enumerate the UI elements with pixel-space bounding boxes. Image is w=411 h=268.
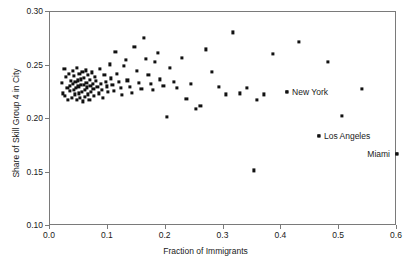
data-point <box>176 86 179 89</box>
data-point <box>151 88 154 91</box>
point-annotation-label: Los Angeles <box>324 131 370 141</box>
data-point <box>106 90 109 93</box>
data-point <box>92 94 95 97</box>
data-point <box>63 94 66 97</box>
data-point <box>255 98 258 101</box>
data-point <box>154 61 157 64</box>
data-point <box>115 72 118 75</box>
data-point <box>108 63 111 66</box>
data-point <box>180 56 183 59</box>
data-point <box>144 57 147 60</box>
data-point <box>122 64 125 67</box>
data-point <box>245 86 248 89</box>
data-point <box>126 79 129 82</box>
data-point <box>133 46 136 49</box>
x-axis-tick-label: 0.2 <box>159 230 171 240</box>
data-point <box>88 98 91 101</box>
data-point <box>63 68 66 71</box>
data-point <box>110 77 113 80</box>
data-point <box>119 86 122 89</box>
x-axis-tick-label: 0.0 <box>43 230 55 240</box>
data-point <box>117 80 120 83</box>
data-point-labeled <box>317 134 320 137</box>
data-point <box>194 107 197 110</box>
x-axis-tick <box>107 225 108 229</box>
data-point <box>89 91 92 94</box>
x-axis-title: Fraction of Immigrants <box>0 246 411 256</box>
data-point <box>105 85 108 88</box>
data-point <box>67 72 70 75</box>
data-point <box>340 114 343 117</box>
data-point <box>102 97 105 100</box>
data-point <box>66 98 69 101</box>
data-point <box>97 92 100 95</box>
x-axis-tick-label: 0.3 <box>217 230 229 240</box>
x-axis-tick-label: 0.1 <box>101 230 113 240</box>
data-point <box>169 66 172 69</box>
data-point <box>131 91 134 94</box>
data-point <box>361 87 364 90</box>
data-point <box>210 70 213 73</box>
data-point <box>162 84 165 87</box>
data-point <box>92 87 95 90</box>
point-annotation-label: New York <box>292 87 328 97</box>
data-point <box>156 51 159 54</box>
y-axis-tick-label: 0.25 <box>26 60 43 70</box>
point-annotation-label: Miami <box>367 149 390 159</box>
data-point <box>149 82 152 85</box>
y-axis-tick <box>45 118 49 119</box>
data-point <box>140 87 143 90</box>
data-point <box>262 93 265 96</box>
data-point <box>165 115 168 118</box>
plot-area: New YorkLos AngelesMiami <box>49 11 396 225</box>
data-point <box>99 82 102 85</box>
data-point <box>104 80 107 83</box>
data-point <box>65 76 68 79</box>
data-point <box>205 48 208 51</box>
x-axis-tick <box>338 225 339 229</box>
data-point <box>238 92 241 95</box>
data-point-labeled <box>286 91 289 94</box>
data-point <box>185 97 188 100</box>
data-point <box>158 78 161 81</box>
data-point <box>88 78 91 81</box>
data-point <box>128 85 131 88</box>
y-axis-tick-label: 0.30 <box>26 6 43 16</box>
x-axis-tick <box>223 225 224 229</box>
data-point <box>124 59 127 62</box>
data-point-labeled <box>395 153 398 156</box>
x-axis-tick-label: 0.6 <box>390 230 402 240</box>
y-axis-tick <box>45 225 49 226</box>
data-point <box>81 100 84 103</box>
data-point <box>60 82 63 85</box>
y-axis-tick-label: 0.10 <box>26 220 43 230</box>
data-point <box>91 83 94 86</box>
x-axis-tick <box>396 225 397 229</box>
data-point <box>103 73 106 76</box>
data-point <box>96 85 99 88</box>
y-axis-title: Share of Skill Group 4 in City <box>11 63 21 183</box>
data-point <box>76 66 79 69</box>
data-point <box>199 105 202 108</box>
data-point <box>90 71 93 74</box>
data-point <box>217 85 220 88</box>
data-point <box>82 76 85 79</box>
data-point <box>71 69 74 72</box>
data-point <box>95 79 98 82</box>
x-axis-tick-label: 0.5 <box>332 230 344 240</box>
data-point <box>142 37 145 40</box>
data-point <box>98 67 101 70</box>
data-point <box>224 93 227 96</box>
data-points-layer <box>50 12 395 224</box>
data-point <box>190 82 193 85</box>
y-axis-tick-label: 0.15 <box>26 167 43 177</box>
x-axis-tick <box>165 225 166 229</box>
data-point <box>94 75 97 78</box>
x-axis-tick <box>280 225 281 229</box>
data-point <box>326 61 329 64</box>
data-point <box>252 169 255 172</box>
data-point <box>78 96 81 99</box>
data-point <box>100 89 103 92</box>
data-point <box>84 69 87 72</box>
data-point <box>121 93 124 96</box>
